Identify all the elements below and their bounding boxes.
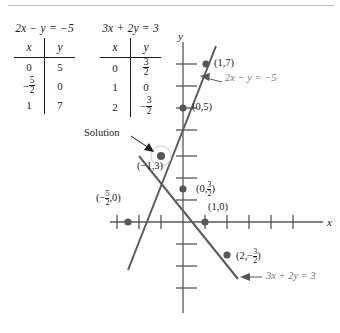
point-1-7 [202,60,209,67]
y-axis-label: y [178,30,183,42]
point-label-1-7: (1,7) [214,57,234,68]
point-label-1-0: (1,0) [208,201,228,212]
point-neg5over2-0 [124,218,131,225]
point-label-0-5: (0,5) [192,101,212,112]
point-2-neg3over2 [223,251,230,258]
point-label-0-3over2: (0,32) [196,181,215,198]
x-axis-label: x [327,216,332,228]
callout-arrow-solution [131,136,154,152]
line2-equation-label: 3x + 2y = 3 [266,270,316,281]
y-axis-ticks [176,64,197,288]
point-1-0 [201,218,208,225]
point-0-5 [179,104,186,111]
coordinate-graph [0,0,340,333]
fraction-5-over-2: 52 [105,190,109,207]
figure-root: 2x − y = −5 x y 0 5 −52 0 [0,0,340,333]
point-intersection-neg1-3 [157,152,165,160]
fraction-3-over-2: 32 [207,181,211,198]
point-label-neg5over2-0: (−52,0) [96,190,121,207]
line-3x-plus-2y-equals-3 [139,156,238,279]
point-0-3over2 [179,185,186,192]
fraction-3-over-2: 32 [253,248,257,265]
point-label-intersection: (−1,3) [137,160,163,171]
solution-callout-label: Solution [84,127,120,138]
point-label-2-neg3over2: (2,−32) [236,248,261,265]
line1-equation-label: 2x − y = −5 [225,72,277,83]
callout-arrow-line2 [240,273,262,281]
